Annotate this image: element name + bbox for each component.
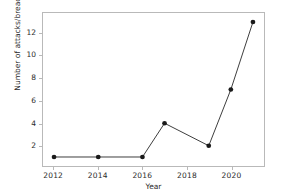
x-tick-label: 2012 — [33, 171, 73, 180]
y-tick-label: 2 — [20, 141, 36, 150]
y-tick-label: 6 — [20, 96, 36, 105]
chart-figure: 20122014201620182020 24681012 Year Numbe… — [0, 0, 287, 196]
y-tick-label: 4 — [20, 119, 36, 128]
data-point — [206, 143, 211, 148]
x-tick-label: 2016 — [122, 171, 162, 180]
data-line — [54, 22, 253, 157]
y-tick-label: 10 — [20, 50, 36, 59]
line-series-svg — [43, 13, 264, 166]
y-tick-mark — [39, 55, 42, 56]
y-tick-mark — [39, 101, 42, 102]
x-axis-label: Year — [42, 182, 265, 191]
y-tick-label: 8 — [20, 73, 36, 82]
x-tick-mark — [98, 167, 99, 170]
plot-area — [42, 12, 265, 167]
data-point — [162, 121, 167, 126]
data-point — [228, 87, 233, 92]
data-point — [52, 155, 57, 160]
y-tick-label: 12 — [20, 28, 36, 37]
data-point — [96, 155, 101, 160]
data-markers — [52, 20, 256, 160]
x-tick-mark — [187, 167, 188, 170]
x-tick-mark — [53, 167, 54, 170]
y-axis-label: Number of attacks/breaches — [13, 0, 22, 98]
x-tick-mark — [232, 167, 233, 170]
y-tick-mark — [39, 124, 42, 125]
data-point — [251, 20, 256, 25]
data-point — [140, 155, 145, 160]
x-tick-mark — [142, 167, 143, 170]
x-tick-label: 2018 — [167, 171, 207, 180]
y-tick-mark — [39, 33, 42, 34]
x-tick-label: 2014 — [78, 171, 118, 180]
y-tick-mark — [39, 78, 42, 79]
x-tick-label: 2020 — [212, 171, 252, 180]
y-tick-mark — [39, 146, 42, 147]
